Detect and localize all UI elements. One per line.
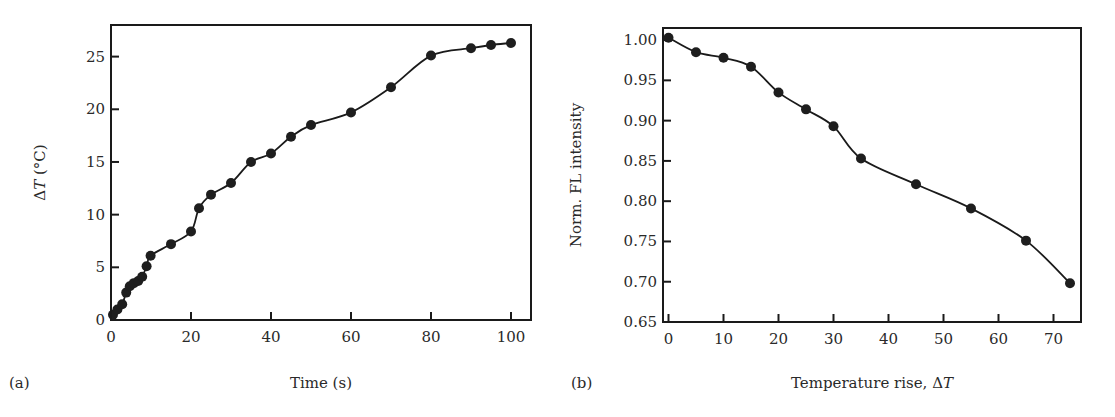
data-point [486,40,496,50]
figure: 0204060801000510152025 Time (s) ΔT (°C) … [0,0,1115,417]
data-point [856,153,866,163]
data-point [206,190,216,200]
x-tick-label: 50 [934,330,953,348]
panel-a-frame [111,25,531,320]
data-point [166,239,176,249]
panel-b-ticks: 0102030405060700.650.700.750.800.850.900… [624,31,1063,348]
data-point [306,120,316,130]
y-tick-label: 0.90 [624,112,657,130]
panel-b-label: (b) [571,374,592,392]
data-point [146,251,156,261]
y-tick-label: 0.70 [624,273,657,291]
panel-b-frame [663,28,1081,322]
data-point [226,178,236,188]
data-point [137,272,147,282]
panel-a-label: (a) [9,374,30,392]
data-point [801,104,811,114]
data-point [246,157,256,167]
x-tick-label: 70 [1044,330,1063,348]
data-point [719,53,729,63]
y-tick-label: 0 [95,311,105,329]
panel-a-markers [108,38,516,320]
x-tick-label: 30 [824,330,843,348]
data-point [506,38,516,48]
data-point [386,82,396,92]
x-tick-label: 20 [769,330,788,348]
panel-a-y-axis-label: ΔT (°C) [31,144,49,200]
y-tick-label: 15 [86,153,105,171]
data-point [911,179,921,189]
y-tick-label: 25 [86,48,105,66]
panel-a-x-axis-label: Time (s) [290,374,352,392]
panel-a-curve [113,43,511,315]
data-point [746,62,756,72]
y-tick-label: 0.75 [624,232,657,250]
y-tick-label: 0.85 [624,152,657,170]
y-tick-label: 1.00 [624,31,657,49]
data-point [1065,278,1075,288]
data-point [266,149,276,159]
data-point [117,299,127,309]
data-point [691,47,701,57]
y-tick-label: 5 [95,258,105,276]
panel-b-markers [664,33,1076,289]
panel-b-y-axis-label: Norm. FL intensity [567,102,585,247]
x-tick-label: 0 [106,328,116,346]
chart-panel-b: 0102030405060700.650.700.750.800.850.900… [567,28,1081,392]
x-tick-label: 60 [989,330,1008,348]
data-point [1021,236,1031,246]
x-tick-label: 0 [664,330,674,348]
panel-a-ticks: 0204060801000510152025 [86,48,525,346]
data-point [194,203,204,213]
y-tick-label: 10 [86,206,105,224]
x-tick-label: 60 [341,328,360,346]
data-point [346,107,356,117]
data-point [142,261,152,271]
y-tick-label: 0.95 [624,71,657,89]
data-point [774,87,784,97]
chart-panel-a: 0204060801000510152025 Time (s) ΔT (°C) … [9,25,531,392]
data-point [966,203,976,213]
data-point [466,43,476,53]
x-tick-label: 10 [714,330,733,348]
y-tick-label: 20 [86,100,105,118]
x-tick-label: 20 [181,328,200,346]
data-point [426,51,436,61]
data-point [286,132,296,142]
data-point [664,33,674,43]
y-tick-label: 0.65 [624,313,657,331]
x-tick-label: 40 [879,330,898,348]
data-point [829,121,839,131]
y-tick-label: 0.80 [624,192,657,210]
x-tick-label: 40 [261,328,280,346]
panel-b-curve [669,38,1071,284]
x-tick-label: 100 [497,328,526,346]
x-tick-label: 80 [421,328,440,346]
panel-b-x-axis-label: Temperature rise, ΔT [791,374,954,392]
data-point [186,227,196,237]
